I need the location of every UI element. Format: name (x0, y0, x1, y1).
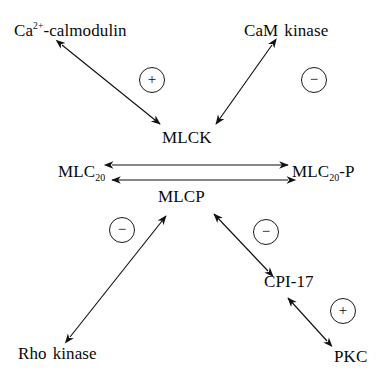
node-cam-kinase: CaMkinase (244, 22, 328, 39)
sign-activate-cpi17: + (330, 298, 356, 324)
node-ca-calmodulin: Ca2+-calmodulin (14, 22, 127, 39)
node-rho-kinase: Rhokinase (18, 345, 97, 362)
isoform-subscript: 20 (329, 172, 339, 183)
node-mlck: MLCK (162, 129, 212, 146)
edge-cam-kinase-to-mlck (216, 45, 272, 124)
sign-inhibit-mlcp-right: − (253, 219, 279, 245)
node-mlcp: MLCP (158, 188, 205, 205)
node-pkc: PKC (334, 348, 367, 365)
edge-pkc-to-cpi17 (288, 298, 327, 341)
node-cpi-17: CPI-17 (264, 273, 314, 290)
sign-activate-mlck: + (139, 67, 165, 93)
charge-superscript: 2+ (33, 21, 43, 31)
signaling-diagram: Ca2+-calmodulin CaMkinase MLCK MLC20 MLC… (0, 0, 391, 376)
sign-inhibit-mlck: − (301, 67, 327, 93)
sign-inhibit-mlcp-left: − (109, 217, 135, 243)
node-mlc20-phosphorylated: MLC20-P (292, 163, 355, 180)
isoform-subscript: 20 (95, 172, 105, 183)
node-mlc20: MLC20 (58, 163, 105, 180)
